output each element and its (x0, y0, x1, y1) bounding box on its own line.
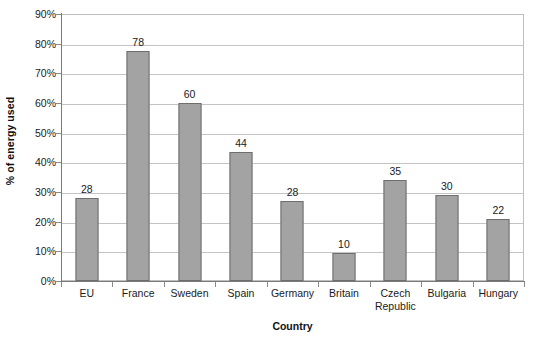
bar-value-label: 60 (184, 89, 196, 100)
bar-slot: 28 (267, 14, 318, 281)
bar-value-label: 28 (81, 184, 93, 195)
x-axis-title: Country (61, 320, 524, 332)
bar-slot: 22 (473, 14, 524, 281)
bar-slot: 28 (61, 14, 112, 281)
bar-value-label: 10 (338, 239, 350, 250)
x-axis-category-label: Britain (318, 287, 369, 300)
y-axis-tick-marks (0, 14, 61, 281)
bar-slot: 30 (421, 14, 472, 281)
bar[interactable] (384, 180, 407, 281)
bar-value-label: 22 (492, 205, 504, 216)
bar[interactable] (230, 152, 253, 281)
x-axis-tick-mark (524, 282, 525, 287)
bar[interactable] (487, 219, 510, 281)
bar-value-label: 35 (390, 166, 402, 177)
x-axis-category-label: France (112, 287, 163, 300)
bar-slot: 35 (370, 14, 421, 281)
x-axis-category-labels: EUFranceSwedenSpainGermanyBritainCzech R… (61, 287, 524, 317)
bar[interactable] (435, 195, 458, 281)
bar[interactable] (281, 201, 304, 281)
bar[interactable] (127, 51, 150, 281)
bar[interactable] (178, 103, 201, 281)
x-axis-category-label: Spain (215, 287, 266, 300)
x-axis-category-label: EU (61, 287, 112, 300)
bar-value-label: 28 (287, 187, 299, 198)
x-axis-category-label: Czech Republic (370, 287, 421, 312)
bar-slot: 78 (112, 14, 163, 281)
bar-value-label: 44 (235, 138, 247, 149)
x-axis-category-label: Bulgaria (421, 287, 472, 300)
bar-value-label: 30 (441, 181, 453, 192)
bar-value-label: 78 (132, 37, 144, 48)
bar-slot: 60 (164, 14, 215, 281)
bar-chart: % of energy used 0%10%20%30%40%50%60%70%… (0, 0, 539, 341)
bar[interactable] (75, 198, 98, 281)
bar[interactable] (332, 253, 355, 281)
x-axis-category-label: Hungary (473, 287, 524, 300)
x-axis-category-label: Germany (267, 287, 318, 300)
bar-slot: 10 (318, 14, 369, 281)
bar-slot: 44 (215, 14, 266, 281)
bars-layer: 287860442810353022 (61, 14, 524, 281)
x-axis-category-label: Sweden (164, 287, 215, 300)
